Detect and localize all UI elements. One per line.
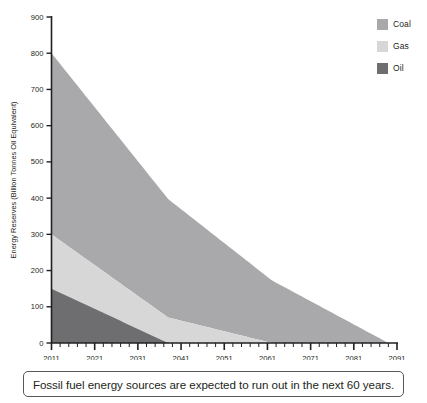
legend-swatch-oil — [377, 63, 388, 74]
x-tick-label: 2011 — [43, 354, 59, 360]
caption-text: Fossil fuel energy sources are expected … — [33, 378, 394, 391]
y-tick-label: 300 — [31, 230, 44, 239]
legend-swatch-gas — [377, 41, 388, 52]
chart-plot-area: 0100200300400500600700800900 20112021203… — [0, 0, 427, 360]
figure: 0100200300400500600700800900 20112021203… — [0, 0, 427, 403]
legend-item-coal: Coal — [377, 19, 411, 30]
y-axis-tick-labels: 0100200300400500600700800900 — [31, 13, 44, 348]
stacked-area-chart: 0100200300400500600700800900 20112021203… — [0, 0, 427, 360]
x-tick-label: 2031 — [129, 354, 146, 360]
series-areas — [52, 53, 398, 343]
legend-swatch-coal — [377, 19, 388, 30]
x-tick-label: 2021 — [86, 354, 103, 360]
chart-legend: Coal Gas Oil — [377, 19, 411, 74]
y-tick-label: 200 — [31, 266, 44, 275]
y-tick-label: 700 — [31, 85, 44, 94]
x-tick-label: 2041 — [173, 354, 190, 360]
y-tick-label: 800 — [31, 49, 44, 58]
x-tick-label: 2061 — [259, 354, 276, 360]
legend-label-coal: Coal — [393, 19, 411, 30]
x-tick-label: 2091 — [389, 354, 406, 360]
x-tick-label: 2071 — [302, 354, 319, 360]
y-tick-label: 100 — [31, 302, 44, 311]
legend-label-oil: Oil — [393, 63, 404, 74]
x-axis-tick-labels: 201120212031204120512061207120812091 — [43, 354, 405, 360]
x-tick-label: 2081 — [345, 354, 362, 360]
legend-item-gas: Gas — [377, 41, 411, 52]
x-axis-ticks — [52, 343, 398, 350]
y-tick-label: 400 — [31, 194, 44, 203]
legend-item-oil: Oil — [377, 63, 411, 74]
y-tick-label: 600 — [31, 121, 44, 130]
legend-label-gas: Gas — [393, 41, 409, 52]
y-tick-label: 500 — [31, 157, 44, 166]
y-tick-label: 900 — [31, 13, 44, 22]
y-axis-title: Energy Reserves (Billion Tonnes Oil Equi… — [9, 102, 18, 259]
y-tick-label: 0 — [39, 339, 43, 348]
caption-box: Fossil fuel energy sources are expected … — [23, 371, 404, 397]
x-tick-label: 2051 — [216, 354, 233, 360]
